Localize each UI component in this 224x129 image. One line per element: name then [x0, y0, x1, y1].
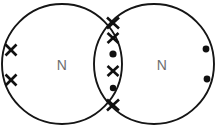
cross-electron-left-upper [6, 45, 17, 56]
atom-label-right: N [157, 57, 167, 73]
dot-electron-right-lower [204, 76, 211, 83]
cross-electron-overlap-lower-mid [108, 66, 119, 76]
dot-electron-overlap-upper-mid [109, 50, 116, 57]
dot-electron-overlap-lower [110, 85, 116, 91]
atom-label-left: N [57, 57, 67, 73]
diagram-canvas: N N [0, 0, 224, 129]
cross-electron-left-lower [6, 75, 17, 86]
dot-electron-right-upper [203, 46, 210, 53]
dot-and-cross-diagram: N N [0, 0, 224, 129]
